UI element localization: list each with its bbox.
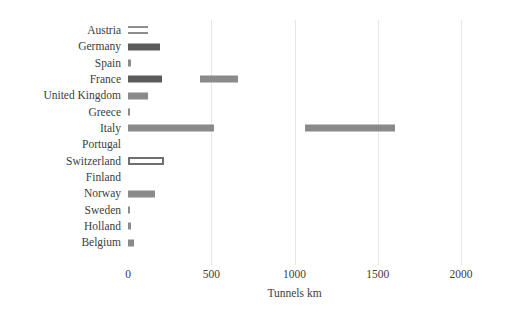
category-label-finland: Finland [86, 169, 121, 185]
tunnels-km-bar-chart: AustriaGermanySpainFranceUnited KingdomG… [0, 0, 511, 313]
bar-united-kingdom [128, 92, 148, 99]
category-label-greece: Greece [88, 104, 121, 120]
category-label-switzerland: Switzerland [66, 153, 121, 169]
x-tick-label-500: 500 [203, 268, 220, 280]
category-label-united-kingdom: United Kingdom [43, 87, 121, 103]
plot-area [128, 20, 461, 265]
category-label-belgium: Belgium [81, 234, 121, 250]
bar-italy [128, 125, 214, 132]
bar-norway [128, 190, 155, 197]
x-axis-tick-labels: 0500100015002000 [128, 268, 461, 284]
bar-greece [128, 108, 130, 115]
bar-row-holland [128, 218, 461, 234]
y-axis-category-labels: AustriaGermanySpainFranceUnited KingdomG… [0, 20, 121, 265]
bar-spain [128, 59, 131, 66]
bar-row-belgium [128, 234, 461, 250]
bar-italy [305, 125, 395, 132]
bar-row-germany [128, 38, 461, 54]
bar-row-france [128, 71, 461, 87]
bar-switzerland [128, 157, 164, 165]
category-label-germany: Germany [78, 38, 121, 54]
gridline-2000 [461, 20, 462, 265]
bar-row-united-kingdom [128, 87, 461, 103]
x-tick-label-1000: 1000 [283, 268, 306, 280]
category-label-portugal: Portugal [82, 136, 121, 152]
bar-row-greece [128, 104, 461, 120]
bar-rows [128, 20, 461, 265]
bar-france [200, 76, 238, 83]
bar-france [128, 76, 162, 83]
bar-row-sweden [128, 202, 461, 218]
category-label-italy: Italy [100, 120, 121, 136]
category-label-norway: Norway [84, 185, 121, 201]
bar-austria [128, 26, 148, 34]
bar-belgium [128, 239, 134, 246]
x-tick-label-2000: 2000 [450, 268, 473, 280]
bar-sweden [128, 206, 130, 213]
category-label-france: France [90, 71, 121, 87]
x-tick-label-1500: 1500 [366, 268, 389, 280]
category-label-sweden: Sweden [85, 202, 121, 218]
x-axis-title: Tunnels km [128, 287, 461, 299]
x-tick-label-0: 0 [125, 268, 131, 280]
bar-row-spain [128, 55, 461, 71]
category-label-spain: Spain [95, 55, 121, 71]
bar-row-austria [128, 22, 461, 38]
bar-holland [128, 223, 131, 230]
bar-row-finland [128, 169, 461, 185]
bar-row-portugal [128, 136, 461, 152]
category-label-austria: Austria [87, 22, 121, 38]
bar-row-switzerland [128, 153, 461, 169]
bar-row-italy [128, 120, 461, 136]
bar-row-norway [128, 185, 461, 201]
category-label-holland: Holland [84, 218, 121, 234]
bar-germany [128, 43, 160, 50]
